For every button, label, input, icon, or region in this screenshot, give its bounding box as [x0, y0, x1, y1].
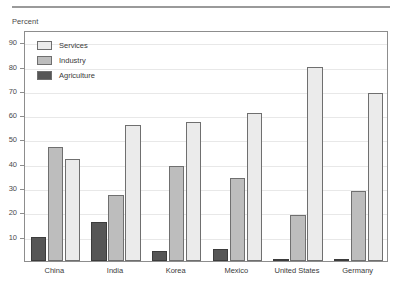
y-tick-mark [20, 189, 24, 190]
bar-services-korea [186, 122, 202, 261]
bar-industry-korea [169, 166, 185, 261]
legend-swatch-agriculture [37, 71, 52, 80]
y-tick-label: 20 [1, 209, 17, 217]
legend-item-services: Services [37, 38, 157, 53]
bar-group [328, 32, 389, 261]
y-tick-mark [20, 92, 24, 93]
legend-label-industry: Industry [59, 56, 86, 65]
bar-services-germany [368, 93, 384, 261]
y-tick-mark [20, 140, 24, 141]
header-divider [12, 6, 390, 8]
bar-agriculture-germany [334, 259, 350, 261]
y-tick-label: 90 [1, 39, 17, 47]
y-tick-label: 30 [1, 185, 17, 193]
bar-services-united-states [307, 67, 323, 262]
y-tick-label: 50 [1, 136, 17, 144]
bar-agriculture-korea [152, 251, 168, 261]
bar-services-india [125, 125, 141, 261]
y-tick-mark [20, 238, 24, 239]
bar-industry-united-states [290, 215, 306, 261]
bar-services-china [65, 159, 81, 261]
x-tick-label: Germany [327, 266, 388, 275]
x-tick-label: China [24, 266, 85, 275]
y-tick-label: 70 [1, 88, 17, 96]
bar-industry-germany [351, 191, 367, 262]
chart-legend: Services Industry Agriculture [37, 38, 157, 83]
legend-label-services: Services [59, 41, 88, 50]
x-tick-label: United States [267, 266, 328, 275]
y-tick-mark [20, 213, 24, 214]
y-tick-label: 80 [1, 64, 17, 72]
bar-agriculture-mexico [213, 249, 229, 261]
legend-swatch-services [37, 41, 52, 50]
y-tick-mark [20, 43, 24, 44]
legend-swatch-industry [37, 56, 52, 65]
y-axis-title: Percent [12, 17, 39, 26]
bar-agriculture-united-states [273, 259, 289, 261]
chart-figure: Percent 908070605040302010 ChinaIndiaKor… [0, 0, 400, 290]
x-tick-label: India [85, 266, 146, 275]
y-tick-label: 40 [1, 161, 17, 169]
y-tick-mark [20, 116, 24, 117]
x-tick-label: Mexico [206, 266, 267, 275]
x-tick-label: Korea [145, 266, 206, 275]
bar-agriculture-india [91, 222, 107, 261]
legend-label-agriculture: Agriculture [59, 71, 95, 80]
y-tick-mark [20, 68, 24, 69]
bar-industry-china [48, 147, 64, 261]
bar-industry-mexico [230, 178, 246, 261]
y-tick-label: 60 [1, 112, 17, 120]
bar-services-mexico [247, 113, 263, 261]
legend-item-industry: Industry [37, 53, 157, 68]
bar-industry-india [108, 195, 124, 261]
y-tick-label: 10 [1, 234, 17, 242]
y-tick-mark [20, 165, 24, 166]
bar-agriculture-china [31, 237, 47, 261]
bar-group [268, 32, 329, 261]
bar-group [207, 32, 268, 261]
legend-item-agriculture: Agriculture [37, 68, 157, 83]
